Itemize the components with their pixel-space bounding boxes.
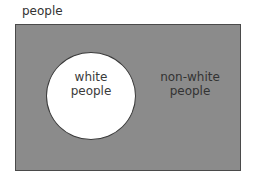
complement-label-line2: people xyxy=(150,84,230,98)
subset-label-line2: people xyxy=(56,84,126,98)
subset-label: white people xyxy=(56,70,126,98)
universe-label: people xyxy=(22,4,63,18)
complement-label-line1: non-white xyxy=(150,70,230,84)
complement-label: non-white people xyxy=(150,70,230,98)
subset-label-line1: white xyxy=(56,70,126,84)
